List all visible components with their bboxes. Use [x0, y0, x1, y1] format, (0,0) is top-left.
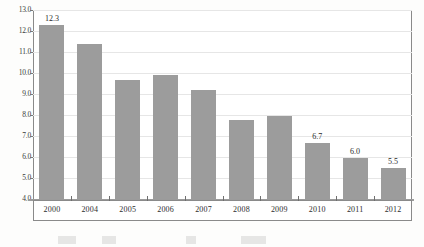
bar-2008 — [229, 120, 254, 200]
bar-2012 — [381, 168, 406, 200]
x-tick-label-2008: 2008 — [223, 205, 261, 214]
x-tick-mark — [298, 196, 299, 201]
x-tick-mark — [336, 196, 337, 201]
bar-chart-figure: 13.0 12.0 11.0 10.0 9.0 8.0 7.0 6.0 5.0 … — [0, 0, 424, 247]
bar-2009 — [267, 116, 292, 200]
x-tick-label-2010: 2010 — [298, 205, 336, 214]
x-axis-categories: 2000 2004 2005 2006 2007 2008 2009 2010 … — [33, 201, 412, 221]
y-tick-label: 9.0 — [3, 90, 31, 98]
x-tick-label-2009: 2009 — [260, 205, 298, 214]
bar-value-label: 6.0 — [339, 147, 372, 156]
y-tick-label: 5.0 — [3, 174, 31, 182]
x-tick-mark — [147, 196, 148, 201]
bar-2007 — [191, 90, 216, 200]
x-tick-label-2000: 2000 — [33, 205, 71, 214]
y-tick-label: 10.0 — [3, 69, 31, 77]
bar-2011 — [343, 158, 368, 200]
y-tick-label: 4.0 — [3, 195, 31, 203]
bar-2005 — [115, 80, 140, 200]
bar-value-label: 6.7 — [301, 132, 334, 141]
x-tick-label-2011: 2011 — [336, 205, 374, 214]
x-tick-label-2006: 2006 — [147, 205, 185, 214]
y-tick-label: 11.0 — [3, 48, 31, 56]
bar-value-label: 12.3 — [35, 14, 68, 23]
x-tick-label-2007: 2007 — [185, 205, 223, 214]
x-tick-label-2005: 2005 — [109, 205, 147, 214]
y-tick-label: 6.0 — [3, 153, 31, 161]
bars-layer: 12.3 6.7 6.0 5.5 — [33, 10, 412, 200]
bar-2010 — [305, 143, 330, 200]
bar-2006 — [153, 75, 178, 200]
x-tick-mark — [374, 196, 375, 201]
y-tick-label: 12.0 — [3, 27, 31, 35]
x-tick-mark — [260, 196, 261, 201]
scan-artifact — [36, 236, 336, 244]
bar-2000 — [39, 25, 64, 200]
y-tick-label: 7.0 — [3, 132, 31, 140]
y-axis: 13.0 12.0 11.0 10.0 9.0 8.0 7.0 6.0 5.0 … — [0, 10, 31, 200]
bar-value-label: 5.5 — [377, 157, 410, 166]
x-tick-mark — [109, 196, 110, 201]
x-tick-label-2012: 2012 — [374, 205, 412, 214]
bar-2004 — [77, 44, 102, 200]
x-tick-mark — [223, 196, 224, 201]
x-tick-mark — [185, 196, 186, 201]
x-tick-mark — [71, 196, 72, 201]
y-tick-label: 8.0 — [3, 111, 31, 119]
x-tick-label-2004: 2004 — [71, 205, 109, 214]
y-tick-label: 13.0 — [3, 6, 31, 14]
